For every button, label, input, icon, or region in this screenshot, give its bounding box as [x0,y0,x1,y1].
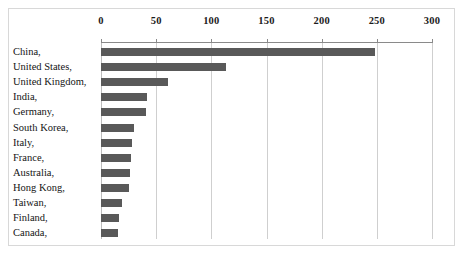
category-label: United States, [13,59,97,74]
category-label: Hong Kong, [13,180,97,195]
category-label: Italy, [13,135,97,150]
category-label: Finland, [13,210,97,225]
category-label: South Korea, [13,120,97,135]
x-tick-label: 100 [203,15,219,26]
x-tick-label: 0 [98,15,103,26]
category-label: France, [13,150,97,165]
x-tick-label: 50 [151,15,162,26]
bar[interactable] [101,78,168,86]
category-label: India, [13,89,97,104]
category-label: Australia, [13,165,97,180]
bar-series [101,43,432,239]
bar-row [101,181,432,196]
x-tick-mark [432,39,433,43]
bar[interactable] [101,184,129,192]
bar-row [101,136,432,151]
bar-row [101,211,432,226]
x-tick-label: 250 [369,15,385,26]
bar-row [101,45,432,60]
bar-row [101,105,432,120]
bar-row [101,60,432,75]
bar-row [101,196,432,211]
bar-row [101,121,432,136]
bar-row [101,151,432,166]
bar[interactable] [101,229,118,237]
bar[interactable] [101,63,226,71]
bar[interactable] [101,169,130,177]
bar-row [101,90,432,105]
category-axis-labels: China,United States,United Kingdom,India… [9,42,101,239]
category-label: United Kingdom, [13,74,97,89]
bar[interactable] [101,124,134,132]
bar[interactable] [101,214,119,222]
bar[interactable] [101,48,375,56]
bar-row [101,75,432,90]
bar[interactable] [101,199,122,207]
bar[interactable] [101,154,131,162]
bar-row [101,166,432,181]
gridline [432,43,433,239]
bar-row [101,226,432,241]
x-tick-label: 200 [313,15,329,26]
x-axis-tick-labels: 050100150200250300 [9,9,456,35]
category-label: China, [13,44,97,59]
bar[interactable] [101,108,146,116]
plot-area [101,42,432,239]
bar[interactable] [101,93,147,101]
chart-frame: 050100150200250300 China,United States,U… [8,8,455,246]
x-tick-label: 300 [424,15,440,26]
category-label: Germany, [13,104,97,119]
x-tick-label: 150 [258,15,274,26]
bar[interactable] [101,139,132,147]
category-label: Canada, [13,225,97,240]
category-label: Taiwan, [13,195,97,210]
